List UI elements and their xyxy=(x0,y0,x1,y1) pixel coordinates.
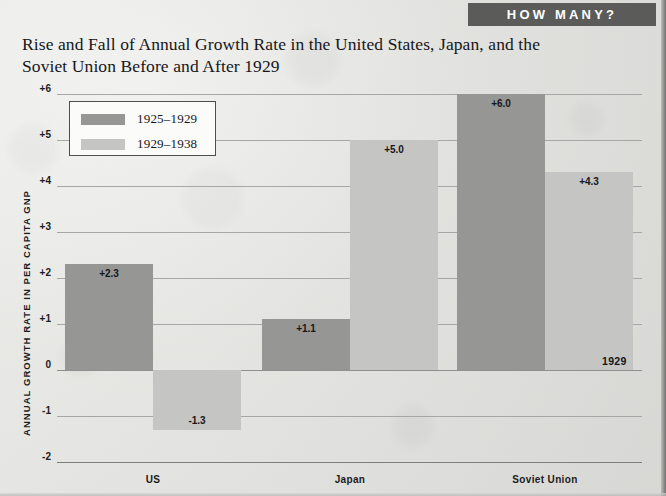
y-tick-label: +3 xyxy=(21,221,51,232)
how-many-banner: HOW MANY? xyxy=(468,3,656,26)
gridline-+6 xyxy=(57,94,642,95)
page-title: Rise and Fall of Annual Growth Rate in t… xyxy=(22,33,632,77)
y-tick-label: 0 xyxy=(21,359,51,370)
baseline-year-annotation: 1929 xyxy=(602,355,627,367)
legend-label: 1925–1929 xyxy=(137,111,197,127)
legend-item: 1925–1929 xyxy=(81,111,215,127)
y-tick-label: +2 xyxy=(21,267,51,278)
bar-value-label: +4.3 xyxy=(545,176,633,187)
y-tick-label: -2 xyxy=(21,451,51,462)
bar-value-label: +5.0 xyxy=(350,144,438,155)
y-tick-label: +4 xyxy=(21,175,51,186)
bar-value-label: -1.3 xyxy=(153,415,241,426)
y-tick-label: +6 xyxy=(21,83,51,94)
gridline--1 xyxy=(57,416,642,417)
legend-swatch-light xyxy=(81,139,125,150)
legend-item: 1929–1938 xyxy=(81,136,215,152)
banner-label: HOW MANY? xyxy=(507,7,617,22)
y-tick-label: -1 xyxy=(21,405,51,416)
gridline-0 xyxy=(57,370,642,371)
scanned-page: HOW MANY? Rise and Fall of Annual Growth… xyxy=(0,0,666,496)
legend-label: 1929–1938 xyxy=(137,136,197,152)
gridline--2 xyxy=(57,462,642,463)
title-line-2: Soviet Union Before and After 1929 xyxy=(22,55,632,77)
bar: +1.1 xyxy=(262,319,350,370)
bar-value-label: +6.0 xyxy=(457,98,545,109)
bar: +5.0 xyxy=(350,140,438,370)
y-tick-label: +1 xyxy=(21,313,51,324)
legend-swatch-dark xyxy=(81,114,125,125)
bar-value-label: +1.1 xyxy=(262,323,350,334)
title-line-1: Rise and Fall of Annual Growth Rate in t… xyxy=(22,33,632,55)
x-category-label: Japan xyxy=(262,474,438,485)
x-category-label: US xyxy=(65,474,241,485)
chart-legend: 1925–1929 1929–1938 xyxy=(69,101,216,156)
bar: +6.0 xyxy=(457,94,545,370)
y-tick-label: +5 xyxy=(21,129,51,140)
x-category-label: Soviet Union xyxy=(457,474,633,485)
bar: -1.3 xyxy=(153,370,241,430)
bar-value-label: +2.3 xyxy=(65,268,153,279)
bar: +2.3 xyxy=(65,264,153,370)
page-edge-right xyxy=(661,0,666,496)
bar: +4.3 xyxy=(545,172,633,370)
